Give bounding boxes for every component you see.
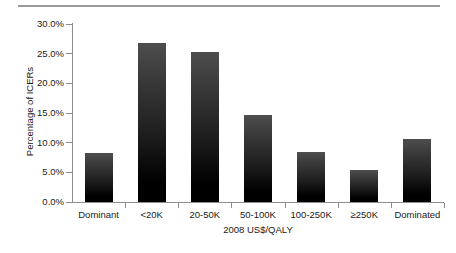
x-axis-title: 2008 US$/QALY	[72, 224, 444, 235]
y-axis-title: Percentage of ICERs	[24, 37, 35, 187]
bar	[297, 152, 325, 202]
bar	[85, 153, 113, 202]
x-tick-mark	[444, 203, 445, 208]
x-tick-label: ≥250K	[338, 209, 391, 220]
x-tick-label: 50-100K	[231, 209, 284, 220]
header-divider	[18, 5, 440, 7]
x-tick-mark	[338, 203, 339, 208]
y-tick-label: 25.0%	[37, 49, 64, 59]
bar	[191, 52, 219, 202]
y-tick-label: 0.0%	[42, 197, 64, 207]
x-tick-mark	[285, 203, 286, 208]
y-tick-label: 20.0%	[37, 78, 64, 88]
x-tick-label: 20-50K	[178, 209, 231, 220]
x-tick-label: Dominant	[72, 209, 125, 220]
y-tick-label: 15.0%	[37, 108, 64, 118]
x-axis-line	[72, 202, 444, 203]
x-tick-label: <20K	[125, 209, 178, 220]
x-tick-mark	[391, 203, 392, 208]
x-tick-mark	[178, 203, 179, 208]
x-tick-mark	[125, 203, 126, 208]
bar	[138, 43, 166, 202]
plot-area	[72, 24, 444, 202]
y-tick-label: 5.0%	[42, 167, 64, 177]
x-tick-mark	[231, 203, 232, 208]
y-tick-label: 10.0%	[37, 138, 64, 148]
x-tick-label: Dominated	[391, 209, 444, 220]
bar	[403, 139, 431, 202]
chart-figure: 0.0%5.0%10.0%15.0%20.0%25.0%30.0% Domina…	[0, 0, 456, 253]
bar	[350, 170, 378, 202]
bar	[244, 115, 272, 202]
y-tick-label: 30.0%	[37, 19, 64, 29]
x-tick-label: 100-250K	[285, 209, 338, 220]
